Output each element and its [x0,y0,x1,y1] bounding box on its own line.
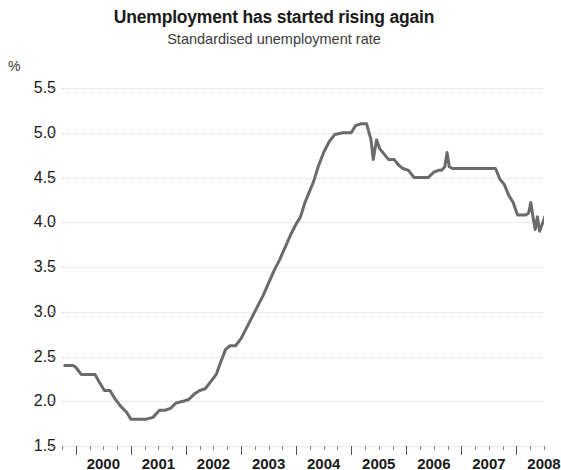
y-axis-tick-mark [51,267,56,268]
chart-subtitle: Standardised unemployment rate [0,31,548,47]
x-axis-tick-minor [420,446,421,450]
x-axis-tick-minor [117,446,118,450]
y-axis-tick-mark [51,178,56,179]
x-axis-tick-minor [434,446,435,450]
x-axis-tick-label: 2008 [527,455,560,470]
y-axis-tick-label: 4.5 [8,169,56,187]
x-axis-tick-minor [90,446,91,450]
x-axis-tick-minor [489,446,490,450]
data-series-line [62,88,544,446]
x-axis-tick-minor [200,446,201,450]
x-axis-tick-minor [145,446,146,450]
x-axis-tick-minor [530,446,531,450]
x-axis-tick-minor [172,446,173,450]
y-axis-tick-label: 3.5 [8,258,56,276]
y-axis-tick-label: 4.0 [8,213,56,231]
y-axis-tick-label: 3.0 [8,303,56,321]
x-axis-tick-major [351,446,352,455]
x-axis-tick-minor [544,446,545,450]
y-axis-tick-label: 2.5 [8,348,56,366]
x-axis-tick-major [186,446,187,455]
x-axis-tick-label: 2002 [197,455,230,470]
y-axis-tick-mark [51,401,56,402]
x-axis-tick-label: 2001 [142,455,175,470]
x-axis-tick-minor [269,446,270,450]
x-axis-tick-minor [448,446,449,450]
x-axis-tick-major [516,446,517,455]
y-axis-tick-mark [51,133,56,134]
x-axis-tick-minor [62,446,63,450]
x-axis-tick-minor [255,446,256,450]
y-axis-tick-mark [51,222,56,223]
y-axis-tick-mark [51,446,56,447]
x-axis-tick-minor [379,446,380,450]
y-axis-labels: 5.55.04.54.03.53.02.52.01.5 [0,88,56,446]
y-axis-tick-label: 2.0 [8,392,56,410]
x-axis-tick-label: 2006 [417,455,450,470]
x-axis-tick-minor [158,446,159,450]
page-title: Unemployment has started rising again [0,7,548,28]
x-axis-tick-minor [324,446,325,450]
x-axis-tick-label: 2004 [307,455,340,470]
x-axis-tick-label: 2003 [252,455,285,470]
x-axis-tick-major [406,446,407,455]
x-axis-tick-minor [103,446,104,450]
y-axis-tick-mark [51,357,56,358]
x-axis-tick-minor [213,446,214,450]
x-axis-tick-minor [282,446,283,450]
x-axis-tick-minor [337,446,338,450]
x-axis-tick-major [461,446,462,455]
x-axis-tick-minor [365,446,366,450]
y-axis-unit-label: % [8,58,20,74]
x-axis-tick-minor [227,446,228,450]
plot-area [62,88,544,446]
y-axis-tick-label: 5.0 [8,124,56,142]
y-axis-tick-label: 1.5 [8,437,56,455]
x-axis-tick-label: 2007 [472,455,505,470]
x-axis-tick-major [296,446,297,455]
x-axis-tick-minor [475,446,476,450]
x-axis-tick-minor [393,446,394,450]
x-axis-tick-label: 2005 [362,455,395,470]
y-axis-tick-label: 5.5 [8,79,56,97]
x-axis-tick-minor [503,446,504,450]
x-axis-tick-major [131,446,132,455]
x-axis-tick-major [241,446,242,455]
x-axis-tick-major [76,446,77,455]
y-axis-tick-mark [51,312,56,313]
x-axis-tick-label: 2000 [87,455,120,470]
y-axis-tick-mark [51,88,56,89]
x-axis-tick-minor [310,446,311,450]
x-axis: 200020012002200320042005200620072008 [62,446,544,470]
